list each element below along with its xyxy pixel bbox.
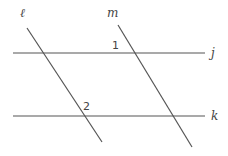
label-l: ℓ: [20, 6, 25, 20]
label-j: j: [208, 46, 215, 60]
geometry-diagram: ℓ m j k 1 2: [0, 0, 228, 156]
label-m: m: [107, 6, 118, 20]
line-l: [27, 28, 102, 142]
label-k: k: [211, 109, 218, 123]
line-m: [118, 25, 192, 147]
angle-2-label: 2: [83, 100, 90, 113]
angle-1-label: 1: [112, 39, 119, 52]
